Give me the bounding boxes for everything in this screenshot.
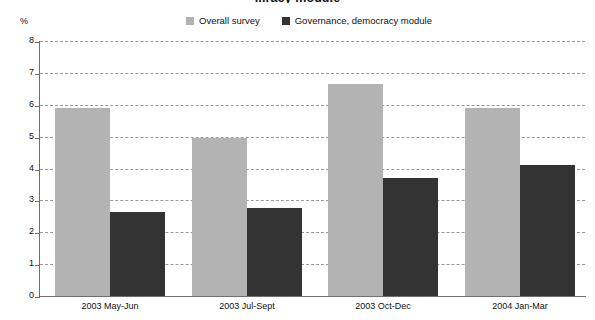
legend-item-governance-module: Governance, democracy module — [282, 15, 432, 26]
y-axis-tick-label-2: 2 — [29, 226, 34, 236]
plot-area — [40, 41, 585, 296]
y-axis-unit-label: % — [20, 16, 28, 26]
bar-governance-module-1[interactable] — [110, 212, 165, 296]
legend-label-overall-survey: Overall survey — [199, 15, 260, 26]
bar-overall-survey-1[interactable] — [55, 108, 110, 296]
bar-group-2 — [192, 138, 302, 296]
bar-chart: ...racy module Overall survey Governance… — [0, 0, 595, 320]
gridline-8 — [40, 41, 585, 42]
y-axis-tick-label-1: 1 — [29, 258, 34, 268]
legend-swatch-overall-survey — [186, 17, 194, 25]
y-tick-mark-3 — [35, 201, 40, 202]
bar-overall-survey-3[interactable] — [328, 84, 383, 296]
y-axis-tick-label-8: 8 — [29, 35, 34, 45]
y-axis-tick-label-7: 7 — [29, 67, 34, 77]
y-tick-mark-0 — [35, 297, 40, 298]
y-axis-tick-label-4: 4 — [29, 163, 34, 173]
y-tick-mark-8 — [35, 42, 40, 43]
bar-overall-survey-2[interactable] — [192, 138, 247, 296]
y-tick-mark-6 — [35, 106, 40, 107]
x-axis-category-label-2: 2003 Jul-Sept — [219, 301, 275, 311]
bar-overall-survey-4[interactable] — [465, 108, 520, 296]
y-axis-tick-labels: 012345678 — [0, 41, 34, 296]
y-tick-mark-5 — [35, 138, 40, 139]
bar-governance-module-2[interactable] — [247, 208, 302, 296]
legend-item-overall-survey: Overall survey — [186, 15, 260, 26]
y-axis-tick-label-6: 6 — [29, 99, 34, 109]
y-axis-tick-label-3: 3 — [29, 194, 34, 204]
y-tick-mark-2 — [35, 233, 40, 234]
bar-group-1 — [55, 108, 165, 296]
x-axis-category-labels: 2003 May-Jun2003 Jul-Sept2003 Oct-Dec200… — [40, 301, 585, 317]
legend-swatch-governance-module — [282, 17, 290, 25]
x-axis-category-label-1: 2003 May-Jun — [81, 301, 138, 311]
bar-governance-module-3[interactable] — [383, 178, 438, 296]
x-axis-category-label-4: 2004 Jan-Mar — [492, 301, 548, 311]
gridline-0 — [40, 296, 585, 297]
y-axis-tick-label-5: 5 — [29, 131, 34, 141]
y-tick-mark-7 — [35, 74, 40, 75]
bar-group-3 — [328, 84, 438, 296]
y-tick-mark-4 — [35, 170, 40, 171]
bar-group-4 — [465, 108, 575, 296]
legend-label-governance-module: Governance, democracy module — [295, 15, 432, 26]
x-axis-category-label-3: 2003 Oct-Dec — [355, 301, 411, 311]
y-tick-mark-1 — [35, 265, 40, 266]
chart-legend: Overall survey Governance, democracy mod… — [186, 15, 432, 26]
gridline-7 — [40, 73, 585, 74]
chart-title: ...racy module — [0, 0, 595, 3]
bar-governance-module-4[interactable] — [520, 165, 575, 296]
gridline-6 — [40, 105, 585, 106]
y-axis-tick-label-0: 0 — [29, 290, 34, 300]
